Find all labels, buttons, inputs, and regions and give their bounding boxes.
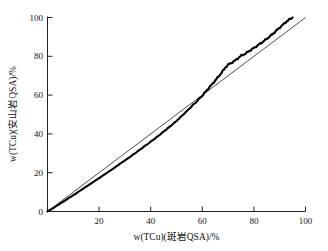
- plot-canvas: 0 20 40 60 80 100 20 40 60 80 100 w(TCu)…: [0, 0, 328, 251]
- x-tick-label-60: 60: [198, 216, 208, 226]
- chart-figure: 0 20 40 60 80 100 20 40 60 80 100 w(TCu)…: [0, 0, 328, 251]
- y-tick-label-20: 20: [34, 168, 44, 178]
- reference-line-series: [48, 18, 306, 212]
- y-tick-label-0: 0: [39, 207, 44, 217]
- y-axis-ticks: [48, 18, 53, 212]
- y-tick-label-60: 60: [34, 90, 44, 100]
- x-axis-ticks: [48, 207, 306, 212]
- y-tick-label-80: 80: [34, 51, 44, 61]
- x-tick-label-20: 20: [95, 216, 105, 226]
- x-axis-tick-labels: 20 40 60 80 100: [95, 216, 313, 226]
- y-axis-title: w(TCu)(安山岩QSA)/%: [7, 66, 19, 162]
- y-axis-tick-labels: 0 20 40 60 80 100: [30, 13, 44, 217]
- data-curve-series: [48, 18, 293, 212]
- y-tick-label-100: 100: [30, 13, 44, 23]
- x-tick-label-80: 80: [249, 216, 259, 226]
- y-tick-label-40: 40: [34, 129, 44, 139]
- x-tick-label-100: 100: [299, 216, 313, 226]
- x-axis-title: w(TCu)(斑岩QSA)/%: [134, 231, 220, 243]
- x-tick-label-40: 40: [146, 216, 156, 226]
